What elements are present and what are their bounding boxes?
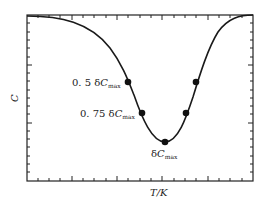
c-curve — [27, 15, 253, 142]
point-0.75-right — [183, 110, 190, 117]
point-0.75-left — [139, 110, 146, 117]
point-0.5-left — [125, 79, 132, 86]
x-axis-label: T/K — [150, 187, 168, 198]
label-dcmax: δCmax — [151, 148, 178, 160]
y-axis-label: C — [9, 94, 20, 102]
plot-frame — [27, 15, 253, 181]
point-0.5-right — [193, 79, 200, 86]
x-ticks-bottom — [38, 176, 242, 181]
label-0.5-dcmax: 0. 5 δCmax — [72, 77, 121, 89]
y-ticks-left — [27, 23, 32, 172]
x-ticks-top — [38, 15, 242, 20]
y-ticks-right — [248, 23, 253, 172]
chart: 0. 5 δCmax 0. 75 δCmax δCmax T/K C — [0, 0, 262, 213]
label-0.75-dcmax: 0. 75 δCmax — [80, 108, 136, 120]
point-min — [162, 139, 169, 146]
